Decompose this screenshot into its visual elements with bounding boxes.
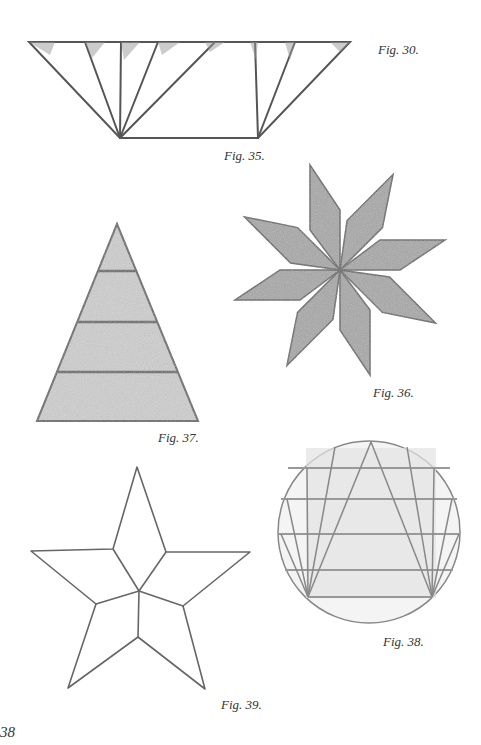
caption-fig-35: Fig. 35. bbox=[224, 148, 265, 164]
caption-fig-30: Fig. 30. bbox=[378, 42, 419, 58]
caption-fig-39: Fig. 39. bbox=[221, 697, 262, 713]
figure-37-banded-triangle bbox=[37, 224, 198, 421]
caption-fig-37: Fig. 37. bbox=[158, 430, 199, 446]
figure-36-pinwheel-star bbox=[235, 165, 445, 375]
figure-38-circle-composition bbox=[278, 441, 460, 623]
figure-35-trapezoid bbox=[29, 42, 350, 138]
caption-fig-36: Fig. 36. bbox=[373, 385, 414, 401]
page-number: 38 bbox=[0, 724, 15, 741]
figure-39-star bbox=[31, 467, 250, 689]
caption-fig-38: Fig. 38. bbox=[383, 634, 424, 650]
